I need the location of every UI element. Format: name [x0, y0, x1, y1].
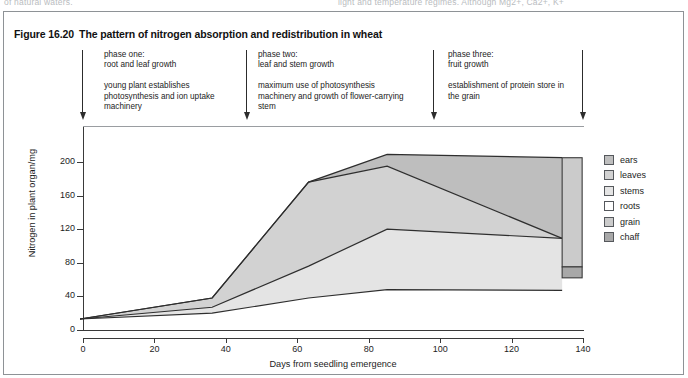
- x-tick-label: 0: [80, 344, 85, 354]
- y-tick-mark: [77, 162, 83, 163]
- legend-label: grain: [620, 217, 640, 227]
- chart-legend: earsleavesstemsrootsgrainchaff: [604, 152, 684, 245]
- x-tick-label: 40: [221, 344, 231, 354]
- x-axis-line: [83, 338, 583, 339]
- legend-swatch-chaff: [604, 232, 614, 242]
- final-bar-chaff: [562, 267, 582, 278]
- y-axis-title: Nitrogen in plant organ/mg: [27, 113, 37, 293]
- legend-swatch-ears: [604, 155, 614, 165]
- legend-label: roots: [620, 201, 640, 211]
- y-tick-mark: [77, 229, 83, 230]
- x-tick-mark: [297, 338, 298, 343]
- y-tick-label: 80: [45, 257, 75, 267]
- legend-swatch-stems: [604, 186, 614, 196]
- final-bar-grain: [562, 158, 582, 267]
- y-axis: Nitrogen in plant organ/mg 0408012016020…: [4, 12, 83, 378]
- x-axis-title: Days from seedling emergence: [83, 359, 583, 369]
- page-bleed-strip: of natural waters. light and temperature…: [0, 0, 688, 11]
- x-tick-mark: [83, 338, 84, 343]
- x-tick-mark: [440, 338, 441, 343]
- legend-item-leaves[interactable]: leaves: [604, 168, 684, 184]
- legend-swatch-leaves: [604, 170, 614, 180]
- legend-item-grain[interactable]: grain: [604, 214, 684, 230]
- legend-swatch-roots: [604, 201, 614, 211]
- legend-label: chaff: [620, 232, 639, 242]
- legend-item-roots[interactable]: roots: [604, 199, 684, 215]
- y-tick-mark: [77, 330, 83, 331]
- y-tick-label: 0: [45, 324, 75, 334]
- legend-item-stems[interactable]: stems: [604, 183, 684, 199]
- x-tick-label: 20: [149, 344, 159, 354]
- y-tick-mark: [77, 196, 83, 197]
- x-tick-label: 80: [364, 344, 374, 354]
- x-tick-label: 120: [504, 344, 519, 354]
- x-tick-mark: [369, 338, 370, 343]
- legend-label: leaves: [620, 170, 646, 180]
- x-tick-mark: [583, 338, 584, 343]
- y-tick-label: 40: [45, 290, 75, 300]
- nitrogen-area-chart: [4, 12, 685, 376]
- y-tick-label: 160: [45, 190, 75, 200]
- page-bleed-right-text: light and temperature regimes. Although …: [338, 0, 564, 7]
- legend-item-chaff[interactable]: chaff: [604, 230, 684, 246]
- legend-swatch-grain: [604, 217, 614, 227]
- legend-item-ears[interactable]: ears: [604, 152, 684, 168]
- x-axis: 020406080100120140 Days from seedling em…: [4, 338, 688, 378]
- y-tick-label: 120: [45, 223, 75, 233]
- y-tick-mark: [77, 263, 83, 264]
- y-tick-mark: [77, 296, 83, 297]
- y-tick-label: 200: [45, 156, 75, 166]
- x-tick-label: 100: [433, 344, 448, 354]
- x-tick-mark: [512, 338, 513, 343]
- figure-container: Figure 16.20The pattern of nitrogen abso…: [3, 11, 684, 375]
- page-bleed-left-text: of natural waters.: [4, 0, 73, 7]
- legend-label: stems: [620, 186, 644, 196]
- x-tick-mark: [226, 338, 227, 343]
- x-tick-label: 60: [292, 344, 302, 354]
- x-tick-label: 140: [575, 344, 590, 354]
- x-tick-mark: [154, 338, 155, 343]
- legend-label: ears: [620, 155, 638, 165]
